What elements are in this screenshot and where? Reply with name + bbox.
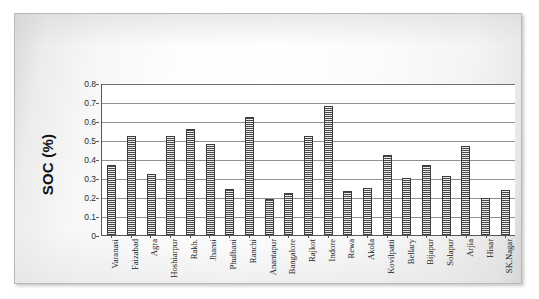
y-axis-tick-label: 0.1: [84, 212, 96, 222]
bar: [245, 117, 254, 235]
x-axis-slot: Ranchi: [239, 238, 259, 299]
x-axis-tick-mark: [209, 235, 210, 238]
y-axis-tick-label: 0.2: [84, 193, 96, 203]
bar-slot: [377, 84, 397, 235]
bar-slot: [417, 84, 437, 235]
bar-slot: [436, 84, 456, 235]
bar: [206, 144, 215, 235]
bar-slot: [456, 84, 476, 235]
x-axis-tick-label: Kovilpatti: [387, 239, 396, 274]
bar: [265, 199, 274, 235]
x-axis-slot: Faizabad: [121, 238, 141, 299]
x-axis-tick-mark: [407, 235, 408, 238]
bar: [461, 146, 470, 235]
x-axis-slot: Akola: [357, 238, 377, 299]
x-axis-tick-mark: [288, 235, 289, 238]
bar: [225, 189, 234, 235]
bar: [107, 165, 116, 235]
bar-slot: [102, 84, 122, 235]
bar: [481, 198, 490, 235]
x-axis-slot: SK.Nagar: [495, 238, 515, 299]
x-axis-slot: Arjia: [456, 238, 476, 299]
x-axis-tick-mark: [229, 235, 230, 238]
x-axis-slot: Rakh.: [180, 238, 200, 299]
bar: [304, 136, 313, 235]
y-axis-title-text: SOC (%): [40, 133, 57, 194]
x-axis-tick-label: Varanasi: [111, 239, 120, 269]
bar-slot: [141, 84, 161, 235]
bar-slot: [338, 84, 358, 235]
x-axis-slot: Bijapur: [417, 238, 437, 299]
bar: [343, 191, 352, 235]
x-axis-slot: Hisar: [476, 238, 496, 299]
bar: [383, 155, 392, 235]
x-axis-slot: Varanasi: [101, 238, 121, 299]
bar: [284, 193, 293, 235]
bar-slot: [122, 84, 142, 235]
bar-slot: [279, 84, 299, 235]
x-axis-slot: Bangalore: [278, 238, 298, 299]
bar: [402, 178, 411, 235]
x-axis-slot: Kovilpatti: [377, 238, 397, 299]
x-axis-tick-label: Arjia: [466, 239, 475, 257]
bar-slot: [200, 84, 220, 235]
x-axis-tick-label: Jhansi: [209, 239, 218, 260]
y-axis-tick-label: 0.7: [84, 98, 96, 108]
x-axis-tick-label: Akola: [367, 239, 376, 260]
y-axis-tick-group: 0.80.70.60.50.40.30.20.10: [67, 84, 99, 236]
x-axis-slot: Rajkot: [298, 238, 318, 299]
x-axis-tick-mark: [347, 235, 348, 238]
x-axis-tick-label: Anantapur: [269, 239, 278, 275]
x-axis-tick-mark: [269, 235, 270, 238]
x-axis-tick-mark: [150, 235, 151, 238]
bar-slot: [318, 84, 338, 235]
x-axis-tick-label: Rakh.: [190, 239, 199, 259]
x-axis-tick-mark: [505, 235, 506, 238]
y-axis-tick-mark: [96, 236, 99, 237]
figure-frame: SOC (%) 0.80.70.60.50.40.30.20.10 Varana…: [14, 13, 522, 284]
x-axis-tick-label: Hoshiarpur: [170, 239, 179, 278]
bar-series: [102, 84, 515, 235]
x-axis-slot: Rewa: [338, 238, 358, 299]
bar: [147, 174, 156, 235]
x-axis-slot: Indore: [318, 238, 338, 299]
y-axis-tick-mark: [96, 179, 99, 180]
x-axis-tick-label: Ranchi: [249, 239, 258, 263]
bar: [186, 129, 195, 235]
y-axis-tick-label: 0.8: [84, 79, 96, 89]
x-axis-slot: Agra: [140, 238, 160, 299]
y-axis-tick-label: 0.4: [84, 155, 96, 165]
x-axis-slot: Phulbani: [219, 238, 239, 299]
x-axis-tick-label: Rewa: [347, 239, 356, 259]
x-axis-slot: Bellary: [397, 238, 417, 299]
x-axis-tick-mark: [131, 235, 132, 238]
bar-slot: [259, 84, 279, 235]
bar-slot: [220, 84, 240, 235]
x-axis-tick-label: Phulbani: [229, 239, 238, 270]
x-axis-tick-label: Solapur: [446, 239, 455, 266]
bar: [422, 165, 431, 235]
bar-slot: [495, 84, 515, 235]
bar: [324, 106, 333, 235]
bar-slot: [358, 84, 378, 235]
y-axis-tick-mark: [96, 84, 99, 85]
y-axis-title: SOC (%): [37, 114, 59, 214]
x-axis-tick-mark: [111, 235, 112, 238]
bar: [363, 188, 372, 236]
bar: [501, 190, 510, 235]
y-axis-tick-mark: [96, 198, 99, 199]
x-axis-tick-label: Faizabad: [131, 239, 140, 270]
bar-slot: [299, 84, 319, 235]
x-axis-tick-mark: [466, 235, 467, 238]
x-axis-tick-label: Bijapur: [426, 239, 435, 265]
x-axis-tick-mark: [426, 235, 427, 238]
y-axis-tick-mark: [96, 217, 99, 218]
x-axis-tick-label: SK.Nagar: [505, 239, 514, 273]
x-axis-tick-mark: [446, 235, 447, 238]
x-axis-slot: Anantapur: [259, 238, 279, 299]
bar-slot: [161, 84, 181, 235]
x-axis-tick-mark: [486, 235, 487, 238]
bar-slot: [397, 84, 417, 235]
x-axis-tick-mark: [170, 235, 171, 238]
x-axis-slot: Hoshiarpur: [160, 238, 180, 299]
